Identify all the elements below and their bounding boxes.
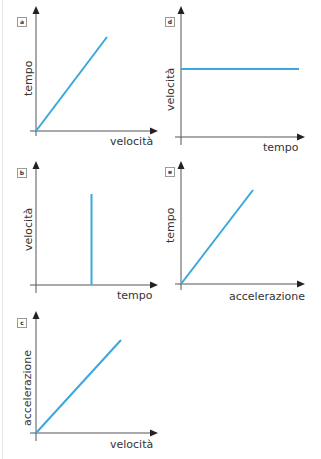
graph-panel-e: e tempo accelerazione (160, 155, 321, 305)
y-axis-arrow-icon (33, 161, 40, 169)
y-axis-label: tempo (22, 60, 35, 96)
x-axis-label: accelerazione (229, 290, 305, 303)
x-axis-arrow-icon (297, 281, 305, 288)
series-line (36, 37, 107, 131)
x-axis-label: tempo (117, 289, 153, 302)
panel-label-a: a (17, 17, 27, 27)
x-axis-arrow-icon (297, 134, 305, 141)
graph-d-plot (160, 0, 321, 155)
panel-label-e: e (165, 167, 175, 177)
y-axis-arrow-icon (178, 161, 185, 169)
graph-panel-d: d velocità tempo (160, 0, 321, 155)
x-axis-arrow-icon (150, 282, 158, 289)
x-axis-arrow-icon (150, 128, 158, 135)
graph-panel-a: a tempo velocità (0, 0, 160, 155)
y-axis-label: tempo (164, 207, 177, 243)
x-axis-label: velocità (110, 438, 153, 451)
y-axis-arrow-icon (33, 311, 40, 319)
graph-e-plot (160, 155, 321, 305)
x-axis-label: velocità (110, 135, 153, 148)
series-line (36, 340, 121, 433)
y-axis-arrow-icon (178, 6, 185, 14)
panel-label-d: d (165, 17, 175, 27)
series-line (181, 190, 253, 284)
graph-panel-b: b velocità tempo (0, 155, 160, 305)
y-axis-label: velocità (164, 68, 177, 111)
x-axis-label: tempo (263, 141, 299, 154)
graph-panel-c: c accelerazione velocità (0, 305, 160, 459)
panel-label-b: b (17, 168, 27, 178)
y-axis-arrow-icon (33, 6, 40, 14)
panel-label-c: c (17, 318, 27, 328)
x-axis-arrow-icon (150, 430, 158, 437)
y-axis-label: velocità (22, 208, 35, 251)
y-axis-label: accelerazione (21, 350, 34, 426)
